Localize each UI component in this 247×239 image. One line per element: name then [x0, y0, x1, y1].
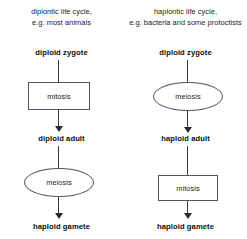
diplontic-header: diplontic life cycle, e.g. most animals	[0, 7, 123, 28]
haplontic-arrowhead-1	[184, 127, 192, 133]
diplontic-connector-1	[58, 60, 59, 82]
haplontic-header-line1: haplontic life cycle,	[124, 7, 247, 18]
diplontic-header-line1: diplontic life cycle,	[0, 7, 123, 18]
diplontic-end-label: haploid gamete	[0, 222, 123, 231]
diplontic-process-mitosis: mitosis	[28, 82, 90, 110]
haplontic-connector-3	[187, 146, 188, 175]
haplontic-middle-label: haploid adult	[124, 134, 247, 143]
haplontic-process-meiosis: meiosis	[153, 82, 223, 111]
haplontic-header: haplontic life cycle, e.g. bacteria and …	[124, 7, 247, 28]
haplontic-column: haplontic life cycle, e.g. bacteria and …	[124, 0, 247, 239]
haplontic-end-label: haploid gamete	[124, 222, 247, 231]
haplontic-start-label: diploid zygote	[124, 48, 247, 57]
diplontic-connector-3	[58, 146, 59, 168]
diplontic-middle-label: diploid adult	[0, 134, 123, 143]
diplontic-start-label: diploid zygote	[0, 48, 123, 57]
life-cycle-diagram: diplontic life cycle, e.g. most animals …	[0, 0, 247, 239]
diplontic-header-line2: e.g. most animals	[0, 18, 123, 29]
haplontic-connector-2	[187, 111, 188, 128]
diplontic-process-meiosis: meiosis	[24, 168, 94, 197]
haplontic-process-mitosis: mitosis	[158, 175, 218, 201]
diplontic-arrowhead-1	[55, 126, 63, 132]
haplontic-connector-1	[187, 60, 188, 82]
haplontic-header-line2: e.g. bacteria and some protoctists	[124, 18, 247, 29]
haplontic-arrowhead-2	[184, 213, 192, 219]
diplontic-connector-2	[58, 110, 59, 127]
diplontic-connector-4	[58, 197, 59, 214]
diplontic-column: diplontic life cycle, e.g. most animals …	[0, 0, 123, 239]
diplontic-arrowhead-2	[55, 213, 63, 219]
